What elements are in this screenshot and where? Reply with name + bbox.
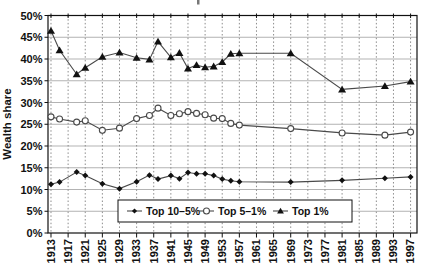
y-tick-label: 10%: [20, 184, 42, 196]
x-tick-label: 1969: [285, 239, 297, 263]
data-point-marker: [202, 171, 208, 177]
y-axis-title: Wealth share: [1, 88, 13, 159]
data-point-marker: [193, 61, 201, 68]
x-tick-label: 1913: [45, 239, 57, 263]
data-point-marker: [408, 174, 414, 180]
y-tick-label: 5%: [27, 205, 43, 217]
data-point-marker: [194, 171, 200, 177]
x-tick-label: 1973: [302, 239, 314, 263]
x-tick-label: 1989: [370, 239, 382, 263]
data-point-marker: [219, 116, 225, 122]
data-point-marker: [99, 127, 105, 133]
cropped-title-fragment: [197, 0, 200, 5]
data-point-marker: [81, 64, 89, 71]
data-point-marker: [236, 179, 242, 185]
y-tick-label: 30%: [20, 97, 42, 109]
data-point-marker: [382, 132, 388, 138]
x-tick-label: 1937: [148, 239, 160, 263]
data-point-marker: [185, 109, 191, 115]
data-point-marker: [408, 129, 414, 135]
data-point-marker: [116, 125, 122, 131]
x-tick-label: 1941: [165, 239, 177, 263]
x-tick-label: 1953: [216, 239, 228, 263]
data-point-marker: [236, 122, 242, 128]
data-point-marker: [211, 173, 217, 179]
data-point-marker: [155, 105, 161, 111]
data-point-marker: [211, 115, 217, 121]
data-point-marker: [168, 113, 174, 119]
data-point-marker: [204, 208, 210, 214]
x-tick-label: 1977: [319, 239, 331, 263]
data-point-marker: [175, 49, 183, 56]
data-point-marker: [219, 176, 225, 182]
x-tick-label: 1929: [113, 239, 125, 263]
data-point-marker: [228, 178, 234, 184]
data-point-marker: [154, 38, 162, 45]
data-point-marker: [74, 169, 80, 175]
data-point-marker: [339, 177, 345, 183]
x-tick-label: 1933: [130, 239, 142, 263]
data-point-marker: [288, 126, 294, 132]
data-point-marker: [155, 176, 161, 182]
x-tick-label: 1949: [199, 239, 211, 263]
data-point-marker: [57, 116, 63, 122]
x-tick-label: 1997: [404, 239, 416, 263]
data-point-marker: [48, 114, 54, 120]
data-point-marker: [146, 172, 152, 178]
data-point-marker: [168, 173, 174, 179]
data-point-marker: [56, 47, 64, 54]
x-tick-label: 1917: [62, 239, 74, 263]
x-tick-label: 1925: [96, 239, 108, 263]
x-tick-label: 1957: [233, 239, 245, 263]
data-point-marker: [82, 173, 88, 179]
data-point-marker: [176, 111, 182, 117]
data-point-marker: [48, 181, 54, 187]
legend-label-top-1: Top 1%: [292, 205, 329, 217]
x-tick-label: 1965: [267, 239, 279, 263]
x-tick-label: 1985: [353, 239, 365, 263]
y-tick-label: 40%: [20, 53, 42, 65]
legend-label-top-10-5: Top 10–5%: [146, 205, 201, 217]
data-point-marker: [339, 130, 345, 136]
x-tick-label: 1921: [79, 239, 91, 263]
data-point-marker: [184, 65, 192, 72]
data-point-marker: [194, 110, 200, 116]
wealth-share-chart: 1913191719211925192919331937194119451949…: [0, 0, 436, 279]
y-tick-label: 0%: [27, 227, 43, 239]
y-tick-label: 45%: [20, 31, 42, 43]
x-tick-label: 1993: [387, 239, 399, 263]
data-point-marker: [74, 119, 80, 125]
y-tick-label: 25%: [20, 118, 42, 130]
x-tick-label: 1981: [336, 239, 348, 263]
data-point-marker: [210, 63, 218, 70]
data-point-marker: [382, 175, 388, 181]
x-tick-label: 1961: [250, 239, 262, 263]
data-point-marker: [134, 116, 140, 122]
data-point-marker: [115, 49, 123, 56]
data-point-marker: [57, 179, 63, 185]
legend-label-top-5-1: Top 5–1%: [218, 205, 267, 217]
data-point-marker: [116, 186, 122, 192]
y-tick-label: 20%: [20, 140, 42, 152]
y-tick-label: 50%: [20, 10, 42, 22]
data-point-marker: [228, 120, 234, 126]
y-tick-label: 35%: [20, 75, 42, 87]
data-point-marker: [99, 181, 105, 187]
data-point-marker: [202, 112, 208, 118]
data-point-marker: [82, 118, 88, 124]
y-tick-label: 15%: [20, 162, 42, 174]
data-point-marker: [288, 179, 294, 185]
data-point-marker: [134, 179, 140, 185]
x-tick-label: 1945: [182, 239, 194, 263]
data-point-marker: [146, 113, 152, 119]
